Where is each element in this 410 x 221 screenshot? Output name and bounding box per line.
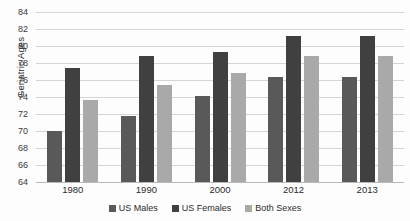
y-axis-tick-label: 82 [0,24,28,34]
plot-area [36,12,404,182]
y-axis-tick-label: 70 [0,126,28,136]
gridline [36,182,404,183]
bars-layer [36,12,404,182]
y-axis-tick-label: 66 [0,160,28,170]
legend-item[interactable]: US Males [109,203,158,213]
y-axis-tick-label: 74 [0,92,28,102]
y-axis-tick-label: 68 [0,143,28,153]
x-axis-tick-label: 2013 [357,184,378,195]
bar [342,77,357,182]
bar [360,36,375,182]
y-axis-tick-label: 72 [0,109,28,119]
bar [378,56,393,182]
y-axis-tick-label: 64 [0,177,28,187]
chart-legend: US MalesUS FemalesBoth Sexes [0,203,410,213]
legend-swatch-icon [109,205,116,212]
bar-group [36,12,404,182]
legend-label: Both Sexes [255,203,301,213]
bar-chart: Geriatric Ages 6466687072747678808284 19… [0,0,410,221]
legend-item[interactable]: US Females [172,203,232,213]
legend-swatch-icon [172,205,179,212]
x-axis-tick-label: 1990 [136,184,157,195]
x-axis-tick-labels: 19801990200020122013 [36,184,404,200]
legend-swatch-icon [245,205,252,212]
x-axis-tick-label: 2012 [283,184,304,195]
legend-label: US Females [182,203,232,213]
x-axis-tick-label: 2000 [209,184,230,195]
y-axis-tick-label: 76 [0,75,28,85]
x-axis-tick-label: 1980 [62,184,83,195]
y-axis-tick-label: 80 [0,41,28,51]
y-axis-tick-label: 78 [0,58,28,68]
legend-label: US Males [119,203,158,213]
y-axis-tick-label: 84 [0,7,28,17]
legend-item[interactable]: Both Sexes [245,203,301,213]
